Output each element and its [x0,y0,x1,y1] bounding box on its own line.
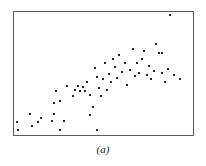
data-point [116,77,118,79]
data-point [104,62,106,64]
data-point [96,76,98,78]
data-point [100,95,102,97]
data-point [136,62,138,64]
data-point [106,89,108,91]
data-point [51,120,53,122]
data-point [179,78,181,80]
data-point [40,117,42,119]
data-point [53,113,55,115]
data-point [102,78,104,80]
data-point [138,72,140,74]
data-point [114,66,116,68]
data-point [96,129,98,131]
data-point [77,85,79,87]
data-point [129,69,131,71]
data-point [59,129,61,131]
data-point [79,90,81,92]
data-point [121,71,123,73]
data-point [63,120,65,122]
data-point [94,67,96,69]
data-point [141,58,143,60]
data-point [92,106,94,108]
data-point [72,95,74,97]
data-point [134,75,136,77]
data-point [53,102,55,104]
data-point [150,78,152,80]
data-point [37,121,39,123]
data-point [155,43,157,45]
data-point [55,90,57,92]
data-point [161,72,163,74]
data-point [153,70,155,72]
data-point [59,100,61,102]
data-point [110,81,112,83]
data-point [158,52,160,54]
data-point [132,48,134,50]
data-point [108,73,110,75]
data-point [112,58,114,60]
data-point [164,81,166,83]
figure-caption: (a) [0,143,206,156]
data-point [169,14,171,16]
scatter-points-layer [14,12,193,135]
data-point [143,50,145,52]
data-point [82,86,84,88]
data-point [86,81,88,83]
data-point [74,89,76,91]
data-point [173,74,175,76]
plot-frame [13,11,194,136]
scatter-plot-figure: (a) [0,0,206,166]
data-point [146,74,148,76]
data-point [161,52,163,54]
data-point [29,113,31,115]
data-point [16,121,18,123]
data-point [124,62,126,64]
data-point [167,68,169,70]
data-point [84,90,86,92]
data-point [98,87,100,89]
data-point [66,85,68,87]
data-point [89,94,91,96]
data-point [118,54,120,56]
data-point [31,125,33,127]
data-point [17,129,19,131]
data-point [89,114,91,116]
data-point [126,84,128,86]
data-point [148,65,150,67]
